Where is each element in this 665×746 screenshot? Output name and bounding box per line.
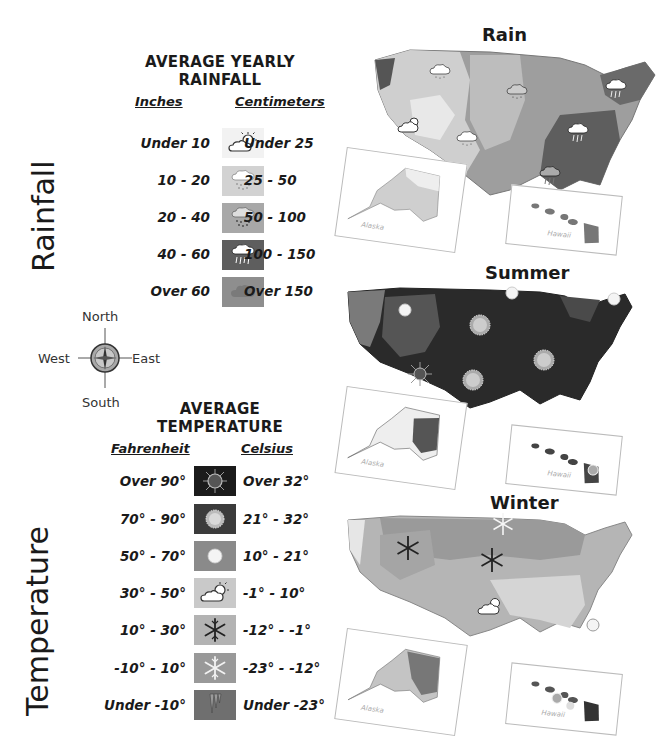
rain-map-cloud-icon [455, 130, 479, 148]
snowflake-icon [194, 615, 236, 645]
blazing-sun-icon [194, 466, 236, 496]
rain-row-inches: Over 60 [150, 283, 210, 299]
temp-row-fahrenheit: -10° - 10° [114, 660, 186, 676]
rain-map-heavy-rain-icon [604, 78, 630, 100]
rainfall-side-title: Rainfall [26, 160, 61, 272]
rain-alaska-inset: Alaska [334, 147, 467, 253]
light-snowflake-icon [194, 653, 236, 683]
sun-cloud-icon [194, 578, 236, 608]
rain-row-inches: 40 - 60 [157, 246, 210, 262]
temp-row-celsius: -1° - 10° [243, 585, 305, 601]
temp-row-celsius: Under -23° [243, 697, 325, 713]
rain-row-cm: Under 25 [244, 135, 314, 151]
summer-map-mild-sun-icon [606, 291, 622, 307]
winter-map-snowflake-icon [479, 547, 505, 573]
icicle-icon [194, 690, 236, 720]
winter-hawaii-inset: Hawaii [505, 662, 623, 735]
rainfall-title-line1: AVERAGE YEARLY [120, 53, 320, 71]
temperature-title-line1: AVERAGE [120, 400, 320, 418]
temperature-title-line2: TEMPERATURE [120, 418, 320, 436]
rain-map-heavy-rain-icon [538, 165, 564, 187]
rain-hawaii-inset: Hawaii [505, 184, 623, 255]
temp-row-celsius: 21° - 32° [243, 511, 309, 527]
compass-rose-icon [78, 326, 132, 390]
summer-map-blazing-sun-icon [408, 362, 432, 386]
temp-row-fahrenheit: Under -10° [104, 697, 186, 713]
winter-map-snowflake-icon [395, 535, 421, 561]
rain-row-cm: 100 - 150 [244, 246, 315, 262]
fahrenheit-column-header: Fahrenheit [111, 441, 190, 456]
summer-map-mild-sun-icon [504, 285, 520, 301]
rain-map-cloud-icon [428, 63, 452, 81]
sun-icon [194, 504, 236, 534]
rain-map-cloud-icon [505, 83, 529, 101]
centimeters-column-header: Centimeters [235, 94, 325, 109]
mild-sun-icon [194, 541, 236, 571]
rain-row-inches: Under 10 [140, 135, 210, 151]
compass-east: East [132, 351, 160, 366]
temperature-legend-title: AVERAGE TEMPERATURE [120, 400, 320, 436]
temp-row-fahrenheit: 50° - 70° [120, 548, 186, 564]
summer-map-sun-icon [461, 368, 485, 392]
rain-row-inches: 20 - 40 [157, 209, 210, 225]
temp-row-fahrenheit: 70° - 90° [120, 511, 186, 527]
summer-map-mild-sun-icon [397, 302, 413, 318]
temp-row-celsius: 10° - 21° [243, 548, 309, 564]
rain-map-sun-cloud-icon [396, 115, 424, 135]
compass-west: West [38, 351, 70, 366]
rain-row-inches: 10 - 20 [157, 172, 210, 188]
summer-hawaii-inset: Hawaii [505, 424, 623, 495]
winter-alaska-inset: Alaska [334, 628, 468, 736]
winter-map-mild-sun-icon [585, 617, 601, 633]
rainfall-legend-title: AVERAGE YEARLY RAINFALL [120, 53, 320, 89]
rain-row-cm: Over 150 [244, 283, 313, 299]
inches-column-header: Inches [135, 94, 183, 109]
summer-map-sun-icon [468, 313, 492, 337]
temp-row-celsius: -23° - -12° [243, 660, 320, 676]
summer-alaska-inset: Alaska [334, 386, 467, 490]
winter-map-sun-cloud-icon [476, 595, 506, 617]
summer-map-sun-icon [532, 348, 556, 372]
temp-row-fahrenheit: 10° - 30° [120, 622, 186, 638]
rain-map-heavy-rain-icon [566, 122, 592, 144]
temp-row-fahrenheit: 30° - 50° [120, 585, 186, 601]
compass-south: South [82, 395, 120, 410]
temp-row-celsius: Over 32° [243, 473, 309, 489]
celsius-column-header: Celsius [241, 441, 293, 456]
compass-north: North [82, 309, 118, 324]
temp-row-celsius: -12° - -1° [243, 622, 311, 638]
rainfall-title-line2: RAINFALL [120, 71, 320, 89]
temp-row-fahrenheit: Over 90° [120, 473, 186, 489]
rain-row-cm: 50 - 100 [244, 209, 306, 225]
summer-map-title: Summer [485, 262, 569, 283]
temperature-side-title: Temperature [20, 526, 55, 716]
winter-map-light-snowflake-icon [491, 512, 515, 536]
rain-row-cm: 25 - 50 [244, 172, 297, 188]
